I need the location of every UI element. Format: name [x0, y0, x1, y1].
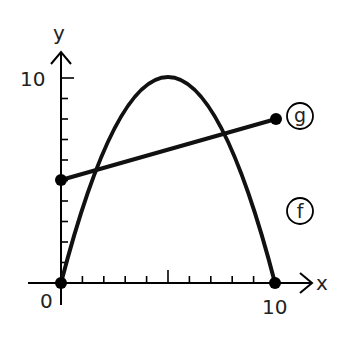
x-axis-label: x — [316, 271, 328, 295]
function-f-curve — [61, 77, 275, 283]
g-endpoint-end — [270, 113, 282, 125]
x-max-label: 10 — [262, 295, 287, 319]
y-axis-ticks — [61, 78, 74, 263]
label-g: g — [287, 103, 313, 129]
g-endpoint-start — [55, 174, 67, 186]
function-g-line — [61, 119, 276, 180]
svg-text:g: g — [294, 104, 306, 126]
label-f: f — [287, 198, 313, 224]
y-max-label: 10 — [20, 67, 45, 91]
f-endpoint-start — [55, 277, 67, 289]
origin-label: 0 — [40, 289, 53, 313]
y-axis-label: y — [53, 21, 65, 45]
coordinate-graph: y x 0 10 10 g f — [0, 0, 339, 346]
x-axis-ticks — [82, 270, 253, 283]
f-endpoint-end — [269, 277, 281, 289]
